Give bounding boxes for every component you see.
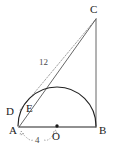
point-label-b: B — [99, 124, 106, 136]
point-label-d: D — [6, 105, 14, 117]
geometry-figure: A B C D E O 12 4 — [0, 0, 113, 149]
dimension-label-12: 12 — [39, 57, 48, 67]
dimension-label-4: 4 — [35, 135, 40, 145]
point-label-e: E — [26, 102, 33, 114]
point-label-o: O — [52, 130, 60, 142]
point-marker-o — [55, 124, 58, 127]
point-label-a: A — [9, 124, 17, 136]
figure-canvas: A B C D E O 12 4 — [0, 0, 113, 149]
point-label-c: C — [90, 3, 97, 15]
